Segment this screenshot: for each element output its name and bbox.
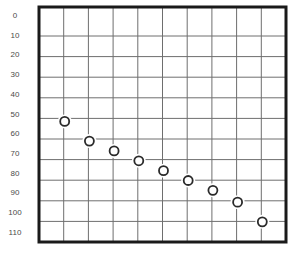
data-point-circle-icon	[233, 198, 242, 207]
y-tick-label: 40	[11, 90, 20, 99]
y-tick-label: 80	[11, 169, 20, 178]
data-point-circle-icon	[258, 217, 267, 226]
grid-lines	[39, 7, 286, 242]
data-point-circle-icon	[208, 186, 217, 195]
y-tick-label: 110	[9, 228, 22, 237]
y-tick-label: 0	[13, 11, 18, 20]
data-point-circle-icon	[134, 156, 143, 165]
y-tick-label: 20	[11, 50, 20, 59]
y-tick-label: 90	[11, 188, 20, 197]
data-point-circle-icon	[60, 117, 69, 126]
y-tick-label: 30	[11, 70, 20, 79]
y-tick-label: 70	[11, 149, 20, 158]
y-tick-label: 10	[11, 31, 20, 40]
data-points	[58, 114, 270, 228]
y-tick-label: 100	[8, 208, 22, 217]
data-point-circle-icon	[110, 146, 119, 155]
y-axis-labels: 0102030405060708090100110	[8, 11, 22, 237]
data-point-circle-icon	[184, 176, 193, 185]
data-point-circle-icon	[159, 166, 168, 175]
scatter-chart: 0102030405060708090100110	[0, 0, 297, 253]
data-point-circle-icon	[85, 137, 94, 146]
y-tick-label: 60	[11, 129, 20, 138]
y-tick-label: 50	[11, 110, 20, 119]
